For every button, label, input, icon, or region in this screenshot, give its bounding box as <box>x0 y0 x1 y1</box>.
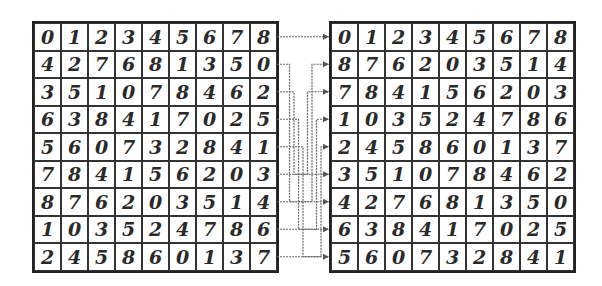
grid-cell: 4 <box>250 188 277 216</box>
grid-cell: 6 <box>331 216 358 244</box>
grid-cell: 5 <box>250 106 277 134</box>
grid-cell: 8 <box>358 78 385 106</box>
grid-cell: 4 <box>142 23 169 51</box>
grid-cell: 2 <box>250 78 277 106</box>
grid-cell: 2 <box>88 23 115 51</box>
grid-cell: 4 <box>385 78 412 106</box>
grid-cell: 8 <box>115 243 142 271</box>
grid-cell: 2 <box>520 216 547 244</box>
grid-cell: 3 <box>250 161 277 189</box>
grid-cell: 2 <box>358 188 385 216</box>
grid-cell: 5 <box>223 51 250 79</box>
grid-cell: 5 <box>466 23 493 51</box>
grid-cell: 1 <box>61 23 88 51</box>
grid-cell: 3 <box>439 243 466 271</box>
grid-cell: 6 <box>61 133 88 161</box>
grid-cell: 6 <box>115 51 142 79</box>
grid-cell: 5 <box>196 188 223 216</box>
grid-cell: 6 <box>412 188 439 216</box>
grid-cell: 3 <box>412 23 439 51</box>
grid-cell: 3 <box>34 78 61 106</box>
grid-cell: 4 <box>547 51 574 79</box>
grid-cell: 1 <box>142 106 169 134</box>
grid-cell: 6 <box>493 23 520 51</box>
grid-cell: 0 <box>412 161 439 189</box>
grid-cell: 0 <box>196 106 223 134</box>
grid-cell: 4 <box>115 106 142 134</box>
row-connector-arrow <box>277 147 329 257</box>
grid-cell: 6 <box>196 23 223 51</box>
grid-cell: 0 <box>115 78 142 106</box>
grid-cell: 2 <box>169 133 196 161</box>
grid-cell: 4 <box>223 133 250 161</box>
grid-cell: 2 <box>34 243 61 271</box>
grid-cell: 6 <box>466 78 493 106</box>
grid-cell: 5 <box>493 51 520 79</box>
grid-cell: 7 <box>115 133 142 161</box>
grid-cell: 2 <box>223 106 250 134</box>
grid-cell: 2 <box>439 106 466 134</box>
grid-cell: 0 <box>385 243 412 271</box>
grid-cell: 0 <box>142 188 169 216</box>
grid-cell: 8 <box>412 133 439 161</box>
grid-cell: 1 <box>520 51 547 79</box>
grid-cell: 7 <box>331 78 358 106</box>
grid-cell: 1 <box>250 133 277 161</box>
grid-cell: 7 <box>412 243 439 271</box>
grid-cell: 0 <box>493 216 520 244</box>
grid-cell: 6 <box>439 133 466 161</box>
grid-cell: 2 <box>466 243 493 271</box>
grid-cell: 6 <box>34 106 61 134</box>
grid-cell: 7 <box>223 23 250 51</box>
grid-cell: 8 <box>385 216 412 244</box>
grid-cell: 3 <box>142 133 169 161</box>
grid-cell: 1 <box>412 78 439 106</box>
grid-cell: 8 <box>223 216 250 244</box>
grid-cell: 6 <box>142 243 169 271</box>
grid-cell: 7 <box>358 51 385 79</box>
grid-cell: 5 <box>547 216 574 244</box>
grid-cell: 6 <box>547 106 574 134</box>
right-grid: 0123456788762035147841562031035247862458… <box>329 21 576 273</box>
grid-cell: 5 <box>520 188 547 216</box>
grid-cell: 3 <box>466 51 493 79</box>
grid-cell: 4 <box>412 216 439 244</box>
grid-cell: 5 <box>88 243 115 271</box>
grid-cell: 1 <box>115 161 142 189</box>
grid-cell: 4 <box>88 161 115 189</box>
grid-cell: 3 <box>331 161 358 189</box>
grid-cell: 7 <box>142 78 169 106</box>
grid-cell: 3 <box>196 51 223 79</box>
grid-cell: 1 <box>466 188 493 216</box>
grid-cell: 1 <box>385 161 412 189</box>
grid-cell: 1 <box>169 51 196 79</box>
grid-cell: 5 <box>358 161 385 189</box>
grid-cell: 8 <box>196 133 223 161</box>
grid-cell: 2 <box>196 161 223 189</box>
grid-cell: 3 <box>358 216 385 244</box>
grid-cell: 0 <box>547 188 574 216</box>
grid-cell: 3 <box>115 23 142 51</box>
grid-cell: 7 <box>61 188 88 216</box>
grid-cell: 5 <box>34 133 61 161</box>
grid-cell: 6 <box>88 188 115 216</box>
grid-cell: 7 <box>169 106 196 134</box>
grid-cell: 5 <box>412 106 439 134</box>
grid-cell: 7 <box>493 106 520 134</box>
grid-cell: 4 <box>196 78 223 106</box>
grid-cell: 7 <box>196 216 223 244</box>
grid-cell: 3 <box>493 188 520 216</box>
grid-cell: 7 <box>88 51 115 79</box>
grid-cell: 2 <box>412 51 439 79</box>
row-connector-arrow <box>277 64 329 202</box>
grid-cell: 0 <box>169 243 196 271</box>
grid-cell: 8 <box>250 23 277 51</box>
grid-cell: 3 <box>547 78 574 106</box>
grid-cell: 0 <box>358 106 385 134</box>
grid-cell: 4 <box>358 133 385 161</box>
grid-cell: 8 <box>466 161 493 189</box>
grid-cell: 7 <box>520 23 547 51</box>
grid-cell: 1 <box>493 133 520 161</box>
grid-cell: 2 <box>331 133 358 161</box>
grid-cell: 2 <box>385 23 412 51</box>
